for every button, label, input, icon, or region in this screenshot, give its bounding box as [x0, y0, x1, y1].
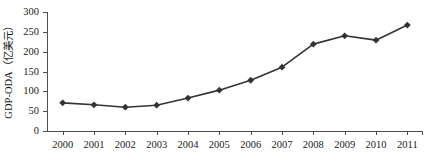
x-tick	[94, 131, 95, 135]
series-layer	[47, 12, 423, 131]
x-tick-label: 2003	[146, 140, 167, 151]
x-tick	[407, 131, 408, 135]
y-tick-label: 0	[34, 126, 39, 137]
x-tick	[157, 131, 158, 135]
x-tick	[313, 131, 314, 135]
x-axis-line	[47, 131, 423, 132]
y-tick-label: 50	[29, 106, 40, 117]
x-tick-label: 2007	[272, 140, 293, 151]
y-tick	[43, 131, 47, 132]
data-point	[122, 104, 129, 111]
x-tick-label: 2008	[303, 140, 324, 151]
x-tick	[125, 131, 126, 135]
y-axis-label: GDP-ODA（亿美元）	[0, 14, 14, 126]
data-point	[247, 77, 254, 84]
data-point	[341, 32, 348, 39]
series-markers	[59, 22, 410, 111]
x-tick-label: 2001	[84, 140, 105, 151]
x-tick	[219, 131, 220, 135]
x-tick-label: 2006	[240, 140, 261, 151]
x-tick	[251, 131, 252, 135]
x-tick-label: 2011	[397, 140, 418, 151]
plot-area: 050100150200250300 200020012002200320042…	[47, 12, 423, 131]
x-tick-label: 2002	[115, 140, 136, 151]
x-tick-end	[422, 131, 423, 135]
series-line	[63, 25, 408, 107]
y-tick-label: 250	[23, 27, 39, 38]
data-point	[185, 95, 192, 102]
x-tick-label: 2009	[334, 140, 355, 151]
data-point	[216, 87, 223, 94]
y-tick-label: 300	[23, 7, 39, 18]
line-chart: GDP-ODA（亿美元） 050100150200250300 20002001…	[0, 0, 428, 162]
x-tick-label: 2004	[178, 140, 199, 151]
y-tick-label: 150	[23, 66, 39, 77]
x-tick-label: 2005	[209, 140, 230, 151]
x-tick	[63, 131, 64, 135]
x-tick	[345, 131, 346, 135]
data-point	[59, 99, 66, 106]
y-axis-label-text: GDP-ODA（亿美元）	[0, 21, 15, 118]
x-tick-label: 2000	[52, 140, 73, 151]
x-tick	[376, 131, 377, 135]
x-tick	[282, 131, 283, 135]
data-point	[404, 22, 411, 29]
data-point	[91, 101, 98, 108]
x-tick-label: 2010	[366, 140, 387, 151]
data-point	[153, 102, 160, 109]
x-tick	[188, 131, 189, 135]
y-tick-label: 200	[23, 46, 39, 57]
y-tick-label: 100	[23, 86, 39, 97]
data-point	[373, 37, 380, 44]
